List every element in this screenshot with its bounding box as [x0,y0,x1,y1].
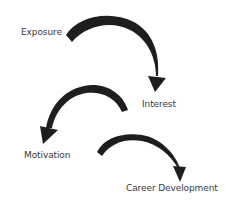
curved-arrow-icon-exposure-to-interest [66,16,166,92]
stage-label-interest: Interest [142,99,176,109]
stage-label-career-development: Career Development [126,183,218,193]
stage-label-motivation: Motivation [24,150,70,160]
stage-label-exposure: Exposure [21,27,62,37]
curved-arrow-icon-interest-to-motivation [40,85,128,144]
curved-arrow-icon-motivation-to-career [97,134,186,182]
career-flow-diagram: Exposure Interest Motivation Career Deve… [0,0,226,202]
